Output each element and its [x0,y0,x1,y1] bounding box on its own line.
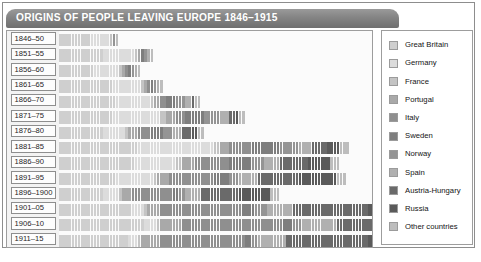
pictogram-figure [144,127,147,139]
legend-swatch [389,186,398,195]
chart-plot-area: 1846–501851–551856–601861–651866–701871–… [6,30,373,248]
pictogram-figure [173,219,176,231]
pictogram-figure [110,157,113,169]
pictogram-figure [371,219,372,231]
pictogram-figure [62,235,65,247]
pictogram-figure [258,173,261,185]
pictogram-figure [214,111,217,123]
pictogram-figure [110,219,113,231]
pictogram-figure [312,142,315,154]
pictogram-figure [87,96,90,108]
legend-item-germany[interactable]: Germany [382,54,472,72]
pictogram-figure [100,65,103,77]
pictogram-figure [353,219,356,231]
pictogram-figure [62,157,65,169]
pictogram-figure [125,96,128,108]
pictogram-figure [125,219,128,231]
legend-item-portugal[interactable]: Portugal [382,91,472,109]
pictogram-figure [151,49,154,61]
pictogram-figure [176,235,179,247]
pictogram-figure [110,111,113,123]
pictogram-figure [280,235,283,247]
pictogram-figure [173,96,176,108]
pictogram-figure [280,219,283,231]
pictogram-figure [239,111,242,123]
pictogram-figure [138,188,141,200]
row-label-box: 1881–85 [11,140,56,152]
legend-item-great-britain[interactable]: Great Britain [382,36,472,54]
legend-swatch [389,222,398,231]
pictogram-figure [368,219,371,231]
legend-item-spain[interactable]: Spain [382,163,472,181]
pictogram-figure [343,204,346,216]
pictogram-figure [214,204,217,216]
legend-item-austria-hungary[interactable]: Austria-Hungary [382,182,472,200]
pictogram-figure [226,235,229,247]
pictogram-figure [116,65,119,77]
legend-item-italy[interactable]: Italy [382,109,472,127]
pictogram-figure [201,219,204,231]
row-pictogram-strip [59,231,372,246]
pictogram-figure [283,173,286,185]
pictogram-figure [62,219,65,231]
legend-item-norway[interactable]: Norway [382,145,472,163]
pictogram-figure [302,173,305,185]
pictogram-figure [286,204,289,216]
pictogram-figure [359,204,362,216]
pictogram-figure [138,142,141,154]
pictogram-figure [346,235,349,247]
pictogram-figure [72,188,75,200]
pictogram-figure [116,235,119,247]
pictogram-figure [211,188,214,200]
pictogram-figure [195,219,198,231]
pictogram-figure [321,157,324,169]
pictogram-figure [226,204,229,216]
pictogram-figure [94,80,97,92]
pictogram-figure [100,96,103,108]
pictogram-figure [157,142,160,154]
legend-label: Norway [405,150,431,158]
pictogram-figure [192,127,195,139]
pictogram-figure [308,157,311,169]
pictogram-figure [59,49,62,61]
pictogram-figure [337,142,340,154]
pictogram-figure [138,173,141,185]
row-label-cell: 1856–60 [7,62,59,77]
legend-item-france[interactable]: France [382,72,472,90]
pictogram-figure [128,142,131,154]
pictogram-figure [84,65,87,77]
pictogram-figure [173,173,176,185]
pictogram-figure [327,173,330,185]
legend-item-other-countries[interactable]: Other countries [382,218,472,236]
legend-item-sweden[interactable]: Sweden [382,127,472,145]
pictogram-figure [248,235,251,247]
pictogram-figure [299,173,302,185]
pictogram-figure [223,219,226,231]
legend-item-russia[interactable]: Russia [382,200,472,218]
pictogram-figure [207,235,210,247]
pictogram-figure [315,173,318,185]
pictogram-figure [274,188,277,200]
pictogram-figure [72,173,75,185]
chart-row: 1871–75 [7,108,372,123]
pictogram-figure [78,96,81,108]
pictogram-figure [103,111,106,123]
pictogram-figure [286,157,289,169]
pictogram-figure [72,235,75,247]
pictogram-figure [176,96,179,108]
pictogram-figure [299,142,302,154]
pictogram-figure [293,219,296,231]
pictogram-figure [91,204,94,216]
pictogram-figure [113,80,116,92]
row-label-cell: 1876–80 [7,124,59,139]
pictogram-figure [128,204,131,216]
pictogram-figure [78,235,81,247]
pictogram-figure [302,142,305,154]
pictogram-figure [135,111,138,123]
pictogram-figure [65,204,68,216]
pictogram-figure [318,235,321,247]
pictogram-figure [91,173,94,185]
pictogram-figure [211,173,214,185]
pictogram-figure [132,111,135,123]
pictogram-figure [330,235,333,247]
